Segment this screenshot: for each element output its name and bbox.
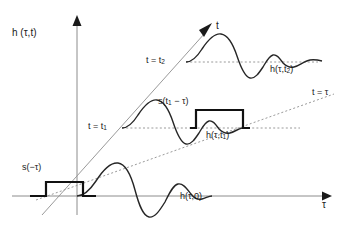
t-axis-label: t <box>216 21 219 31</box>
label-h-tau-t2: h(τ,t2) <box>270 65 293 75</box>
label-h-tau-t2-rest: ) <box>290 64 293 74</box>
pulse-s-minus-tau <box>30 182 96 196</box>
impulse-response-figure: h (τ,t) t τ t = t2 t = t1 t = τ s(−τ) s(… <box>0 0 357 231</box>
label-s-t1-minus-tau-rest: − τ) <box>172 96 189 106</box>
t-equals-tau-line <box>36 94 334 200</box>
label-t-equals-t2-sub: 2 <box>161 58 165 65</box>
figure-canvas <box>0 0 357 231</box>
pulse-s-t1-minus-tau <box>190 110 250 128</box>
waveform-h-tau-0 <box>77 163 212 217</box>
label-s-minus-tau: s(−τ) <box>22 163 41 172</box>
label-t-equals-tau: t = τ <box>312 88 328 97</box>
t-axis-diagonal <box>42 23 212 215</box>
label-s-t1-minus-tau: s(t1 − τ) <box>158 97 188 107</box>
label-t-equals-t2-main: t = t <box>146 55 161 65</box>
label-t-equals-t2: t = t2 <box>146 56 165 66</box>
y-axis-label: h (τ,t) <box>12 28 37 38</box>
label-h-tau-t1-rest: ) <box>226 130 229 140</box>
tau-axis-label: τ <box>322 200 326 210</box>
label-t-equals-t1-sub: 1 <box>103 124 107 131</box>
label-s-t1-minus-tau-main: s(t <box>158 96 168 106</box>
label-h-tau-t1-main: h(τ,t <box>206 130 223 140</box>
label-h-tau-t1: h(τ,t1) <box>206 131 229 141</box>
label-t-equals-t1: t = t1 <box>88 122 107 132</box>
waveform-h-tau-t2 <box>186 34 322 78</box>
label-h-tau-0: h(τ,0) <box>180 192 202 201</box>
label-h-tau-t2-main: h(τ,t <box>270 64 287 74</box>
label-t-equals-t1-main: t = t <box>88 121 103 131</box>
tau-axis <box>12 192 332 201</box>
